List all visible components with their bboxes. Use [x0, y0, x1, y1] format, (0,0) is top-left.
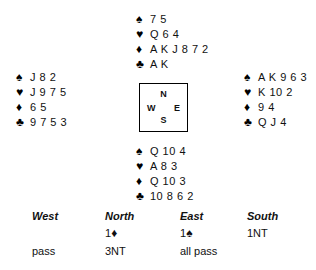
hand-north-spades: 7 5: [147, 12, 167, 27]
hand-west-hearts: J 9 7 5: [27, 85, 67, 100]
hand-north-diamonds: A K J 8 7 2: [147, 42, 209, 57]
spade-icon: ♠: [136, 144, 147, 159]
auction-bid-south-1: 1NT: [247, 225, 268, 242]
hand-north-clubs-row: ♣ A K: [136, 57, 209, 72]
heart-icon: ♥: [16, 85, 27, 100]
hand-west-spades: J 8 2: [27, 70, 56, 85]
hand-north-diamonds-row: ♦ A K J 8 7 2: [136, 42, 209, 57]
spade-icon: ♠: [244, 70, 255, 85]
hand-south-clubs: 10 8 6 2: [147, 189, 194, 204]
hand-north-hearts: Q 6 4: [147, 27, 179, 42]
hand-south-diamonds: Q 10 3: [147, 174, 186, 189]
hand-east-clubs: Q J 4: [255, 115, 287, 130]
hand-south-diamonds-row: ♦ Q 10 3: [136, 174, 194, 189]
hand-west-spades-row: ♠ J 8 2: [16, 70, 67, 85]
compass-label-west: W: [147, 103, 156, 112]
hand-north-spades-row: ♠ 7 5: [136, 12, 209, 27]
hand-east-spades: A K 9 6 3: [255, 70, 307, 85]
spade-icon: ♠: [16, 70, 27, 85]
hand-east-diamonds-row: ♦ 9 4: [244, 100, 307, 115]
club-icon: ♣: [136, 189, 147, 204]
diamond-icon: ♦: [111, 226, 117, 240]
hand-south-hearts: A 8 3: [147, 159, 178, 174]
hand-north-clubs: A K: [147, 57, 169, 72]
compass-box: N W E S: [139, 83, 188, 132]
compass-label-south: S: [160, 116, 166, 125]
hand-south-spades: Q 10 4: [147, 144, 186, 159]
auction-bid-north-1: 1♦: [105, 225, 117, 242]
diamond-icon: ♦: [136, 42, 147, 57]
bridge-deal-diagram: ♠ 7 5 ♥ Q 6 4 ♦ A K J 8 7 2 ♣ A K ♠ J 8 …: [0, 0, 316, 270]
diamond-icon: ♦: [16, 100, 27, 115]
compass-label-north: N: [160, 90, 167, 99]
hand-east-hearts: K 10 2: [255, 85, 293, 100]
hand-west-clubs: 9 7 5 3: [27, 115, 67, 130]
auction-bid-west-2: pass: [32, 243, 55, 260]
diamond-icon: ♦: [136, 174, 147, 189]
club-icon: ♣: [136, 57, 147, 72]
diamond-icon: ♦: [244, 100, 255, 115]
hand-east-hearts-row: ♥ K 10 2: [244, 85, 307, 100]
hand-west-clubs-row: ♣ 9 7 5 3: [16, 115, 67, 130]
auction-bid-north-2: 3NT: [105, 243, 126, 260]
hand-east-clubs-row: ♣ Q J 4: [244, 115, 307, 130]
auction-header-south: South: [247, 208, 278, 225]
club-icon: ♣: [244, 115, 255, 130]
auction-row: pass 3NT all pass: [0, 243, 316, 260]
auction-header-east: East: [180, 208, 203, 225]
hand-west-diamonds: 6 5: [27, 100, 47, 115]
heart-icon: ♥: [136, 27, 147, 42]
auction-header-west: West: [32, 208, 58, 225]
club-icon: ♣: [16, 115, 27, 130]
hand-north: ♠ 7 5 ♥ Q 6 4 ♦ A K J 8 7 2 ♣ A K: [136, 12, 209, 72]
auction-bid-east-2: all pass: [180, 243, 217, 260]
hand-south-spades-row: ♠ Q 10 4: [136, 144, 194, 159]
hand-east: ♠ A K 9 6 3 ♥ K 10 2 ♦ 9 4 ♣ Q J 4: [244, 70, 307, 130]
spade-icon: ♠: [136, 12, 147, 27]
auction-table: West North East South 1♦ 1♠ 1NT pass 3NT…: [0, 208, 316, 260]
hand-west-hearts-row: ♥ J 9 7 5: [16, 85, 67, 100]
hand-south-clubs-row: ♣ 10 8 6 2: [136, 189, 194, 204]
compass-label-east: E: [174, 103, 180, 112]
hand-west-diamonds-row: ♦ 6 5: [16, 100, 67, 115]
heart-icon: ♥: [244, 85, 255, 100]
auction-header-north: North: [105, 208, 134, 225]
auction-bid-east-1: 1♠: [180, 225, 193, 242]
hand-north-hearts-row: ♥ Q 6 4: [136, 27, 209, 42]
hand-south-hearts-row: ♥ A 8 3: [136, 159, 194, 174]
auction-row: 1♦ 1♠ 1NT: [0, 225, 316, 241]
hand-west: ♠ J 8 2 ♥ J 9 7 5 ♦ 6 5 ♣ 9 7 5 3: [16, 70, 67, 130]
hand-south: ♠ Q 10 4 ♥ A 8 3 ♦ Q 10 3 ♣ 10 8 6 2: [136, 144, 194, 204]
hand-east-diamonds: 9 4: [255, 100, 275, 115]
hand-east-spades-row: ♠ A K 9 6 3: [244, 70, 307, 85]
heart-icon: ♥: [136, 159, 147, 174]
spade-icon: ♠: [186, 226, 192, 240]
auction-header-row: West North East South: [0, 208, 316, 225]
